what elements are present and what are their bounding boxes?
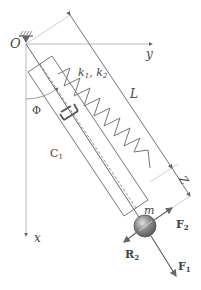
reaction-r2-label: R2 — [125, 248, 139, 262]
force-f2-arrow — [154, 208, 172, 220]
spring-label: k1, k2 — [78, 66, 108, 80]
damper-label: C1 — [50, 147, 63, 161]
diagram-canvas: O y x k1, k2 L Φ C1 Z m F2 F1 R2 — [0, 0, 201, 290]
force-f1-arrow — [151, 236, 176, 276]
mass-label: m — [144, 204, 154, 217]
length-label: L — [129, 87, 138, 101]
damper-icon — [60, 104, 78, 120]
pendulum-diagram: O y x k1, k2 L Φ C1 Z m F2 F1 R2 — [0, 0, 201, 290]
y-axis-label: y — [145, 47, 153, 61]
spring-icon — [58, 68, 150, 168]
origin-label: O — [10, 36, 21, 51]
force-f1-label: F1 — [178, 260, 191, 274]
angle-label: Φ — [32, 104, 41, 117]
x-axis-label: x — [34, 231, 41, 245]
center-dashed-line — [40, 64, 136, 208]
fixed-support-icon — [19, 31, 33, 43]
reaction-r2-arrow — [124, 232, 137, 242]
force-f2-label: F2 — [176, 218, 189, 232]
